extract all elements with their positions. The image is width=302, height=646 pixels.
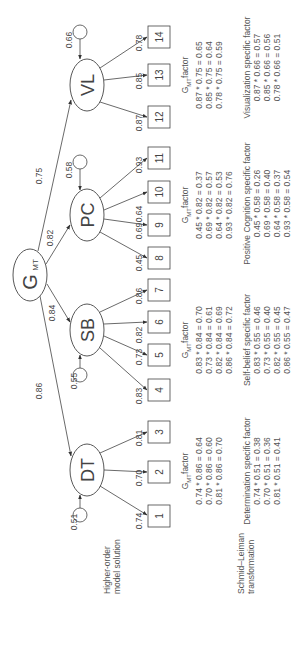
specific-block-pc: Positive Cognition specific factor 0.45 … [242, 131, 292, 276]
specific-block-dt: Determination specific factor 0.74 * 0.5… [242, 406, 282, 536]
gmt-block-dt: GMTfactor 0.74 * 0.86 = 0.64 0.70 * 0.86… [180, 426, 224, 516]
svg-text:0.85: 0.85 [134, 72, 144, 89]
diagram-stage: G MT 0.86 0.84 0.82 0.75 DT 0.51 0.74 0.… [0, 0, 302, 646]
loading-g-vl: 0.75 [34, 167, 44, 184]
svg-text:1: 1 [154, 513, 165, 519]
indicator-3: 3 [148, 421, 170, 443]
gmt-subscript: MT [31, 259, 40, 271]
svg-text:13: 13 [154, 69, 165, 81]
indicator-12: 12 [148, 106, 170, 128]
specific-block-vl: Visualization specific factor 0.87 * 0.6… [242, 5, 282, 130]
indicator-14: 14 [148, 26, 170, 48]
factor-dt: DT 0.51 0.74 0.70 0.81 [69, 429, 147, 530]
svg-text:11: 11 [154, 152, 165, 163]
indicator-11: 11 [148, 147, 170, 169]
indicator-4: 4 [148, 379, 170, 401]
svg-text:4: 4 [154, 387, 165, 393]
factor-pc: PC 0.58 0.45 0.69 0.64 0.93 [64, 155, 147, 271]
svg-text:DT: DT [78, 458, 98, 482]
svg-text:0.87: 0.87 [134, 114, 144, 131]
svg-text:0.93: 0.93 [134, 156, 144, 173]
gmt-node: G MT [13, 249, 47, 301]
svg-text:0.78: 0.78 [134, 34, 144, 51]
gmt-label: G [19, 274, 41, 290]
indicator-2: 2 [148, 461, 170, 483]
svg-text:3: 3 [154, 429, 165, 435]
gmt-block-pc: GMTfactor 0.45 * 0.82 = 0.37 0.69 * 0.82… [180, 160, 234, 250]
loading-g-pc: 0.82 [45, 229, 55, 246]
residual-pc-value: 0.58 [64, 161, 74, 178]
specific-block-sb: Self-belief specific factor 0.83 * 0.55 … [242, 280, 292, 400]
indicator-6: 6 [148, 311, 170, 333]
svg-text:12: 12 [154, 111, 165, 123]
svg-text:VL: VL [78, 74, 98, 96]
gmt-block-vl: GMTfactor 0.87 * 0.75 = 0.65 0.85 * 0.75… [180, 30, 224, 120]
svg-text:0.82: 0.82 [134, 326, 144, 343]
svg-text:PC: PC [78, 202, 98, 227]
svg-text:0.86: 0.86 [134, 287, 144, 304]
svg-text:8: 8 [154, 255, 165, 261]
indicator-5: 5 [148, 344, 170, 366]
svg-text:0.81: 0.81 [134, 429, 144, 446]
svg-text:7: 7 [154, 287, 165, 293]
indicator-10: 10 [148, 181, 170, 203]
gmt-block-sb: GMTfactor 0.83 * 0.84 = 0.70 0.73 * 0.84… [180, 295, 234, 385]
residual-pc [73, 155, 87, 169]
factor-vl: VL 0.66 0.87 0.85 0.78 [64, 25, 147, 131]
svg-text:0.64: 0.64 [134, 205, 144, 222]
svg-text:14: 14 [154, 31, 165, 43]
residual-vl-value: 0.66 [64, 31, 74, 48]
schmid-leiman-label: Schmid–Leiman transformation [236, 533, 256, 594]
svg-text:9: 9 [154, 222, 165, 228]
svg-text:10: 10 [154, 186, 165, 198]
svg-text:SB: SB [78, 318, 98, 342]
svg-text:0.74: 0.74 [134, 512, 144, 529]
indicator-9: 9 [148, 214, 170, 236]
residual-vl [73, 25, 87, 39]
indicator-7: 7 [148, 279, 170, 301]
indicator-1: 1 [148, 505, 170, 527]
svg-text:0.45: 0.45 [134, 254, 144, 271]
svg-text:2: 2 [154, 469, 165, 475]
loading-g-sb: 0.84 [47, 304, 57, 321]
higher-order-label: Higher-order model solution [102, 539, 122, 594]
svg-text:5: 5 [154, 352, 165, 358]
loading-g-dt: 0.86 [34, 382, 44, 399]
svg-text:6: 6 [154, 319, 165, 325]
indicator-boxes: 1 2 3 4 5 6 7 8 9 10 11 12 13 14 [148, 26, 170, 527]
factor-sb: SB 0.55 0.83 0.73 0.82 0.86 [69, 287, 147, 404]
indicator-13: 13 [148, 64, 170, 86]
residual-sb-value: 0.55 [69, 372, 79, 389]
svg-text:0.70: 0.70 [134, 469, 144, 486]
residual-dt-value: 0.51 [69, 513, 79, 530]
svg-text:0.69: 0.69 [134, 222, 144, 239]
indicator-8: 8 [148, 247, 170, 269]
svg-text:0.73: 0.73 [134, 348, 144, 365]
svg-text:0.83: 0.83 [134, 387, 144, 404]
